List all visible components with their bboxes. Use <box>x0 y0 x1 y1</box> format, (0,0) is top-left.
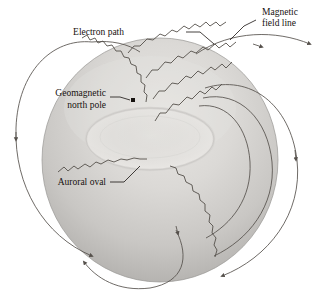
label-electron-path: Electron path <box>73 27 124 37</box>
leader-magnetic-field-line <box>230 20 256 40</box>
geomagnetic-pole-marker <box>131 98 135 102</box>
auroral-oval-band <box>86 108 214 170</box>
label-auroral-oval: Auroral oval <box>58 177 107 187</box>
label-magnetic-field-line-2: field line <box>262 18 296 28</box>
label-magnetic-field-line-1: Magnetic <box>262 7 298 17</box>
label-geomagnetic-pole-2: north pole <box>67 100 106 110</box>
diagram-canvas: Electron path Magnetic field line Geomag… <box>0 0 323 300</box>
label-geomagnetic-pole-1: Geomagnetic <box>55 88 106 98</box>
auroral-oval-ring <box>86 108 214 170</box>
magnetosphere-diagram: Electron path Magnetic field line Geomag… <box>0 0 323 300</box>
field-arrow-top-right <box>253 44 262 47</box>
